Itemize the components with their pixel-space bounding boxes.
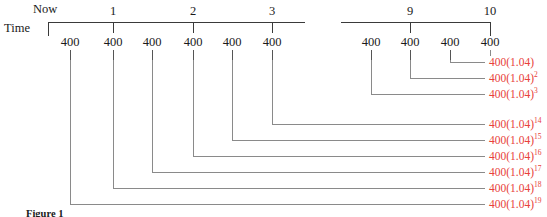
accumulated-value-exponent-3: 3 — [534, 86, 538, 95]
axis-label-now: Now — [33, 3, 57, 16]
accumulated-value-7: 400(1.04)17 — [489, 167, 542, 179]
accumulated-value-5: 400(1.04)15 — [489, 135, 542, 147]
accumulated-value-exponent-5: 15 — [534, 132, 542, 141]
accumulated-value-exponent-2: 2 — [534, 70, 538, 79]
accumulated-value-8: 400(1.04)18 — [489, 183, 542, 195]
payment-amount-7: 400 — [362, 36, 381, 49]
time-axis — [48, 22, 490, 36]
accumulated-value-6: 400(1.04)16 — [489, 151, 542, 163]
accumulated-value-9: 400(1.04)19 — [489, 199, 542, 211]
payment-amount-9: 400 — [441, 36, 460, 49]
payment-amount-6: 400 — [263, 36, 282, 49]
payment-amount-4: 400 — [184, 36, 203, 49]
accumulated-value-1: 400(1.04) — [489, 57, 534, 69]
axis-tick-label-3: 3 — [269, 5, 275, 18]
accumulated-value-exponent-4: 14 — [534, 116, 542, 125]
axis-tick-label-9: 9 — [407, 5, 413, 18]
timeline-drawing — [0, 0, 547, 217]
accumulated-value-exponent-6: 16 — [534, 148, 542, 157]
accumulated-value-4: 400(1.04)14 — [489, 119, 542, 131]
figure-caption: Figure 1 — [26, 208, 63, 217]
payment-amount-3: 400 — [143, 36, 162, 49]
axis-tick-label-10: 10 — [484, 5, 497, 18]
accumulated-value-3: 400(1.04)3 — [489, 89, 538, 101]
figure-canvas: Time Now 123910 400400400400400400400400… — [0, 0, 547, 217]
axis-tick-label-2: 2 — [190, 5, 196, 18]
accumulated-value-exponent-7: 17 — [534, 164, 542, 173]
accumulated-value-exponent-8: 18 — [534, 180, 542, 189]
accumulation-connectors — [70, 50, 490, 204]
accumulated-value-2: 400(1.04)2 — [489, 73, 538, 85]
payment-amount-2: 400 — [104, 36, 123, 49]
payment-amount-8: 400 — [401, 36, 420, 49]
axis-tick-label-1: 1 — [110, 5, 116, 18]
payment-amount-5: 400 — [223, 36, 242, 49]
payment-amount-10: 400 — [481, 36, 500, 49]
axis-title-time: Time — [4, 22, 30, 35]
payment-stems — [70, 50, 450, 60]
payment-amount-1: 400 — [61, 36, 80, 49]
accumulated-value-exponent-9: 19 — [534, 196, 542, 205]
